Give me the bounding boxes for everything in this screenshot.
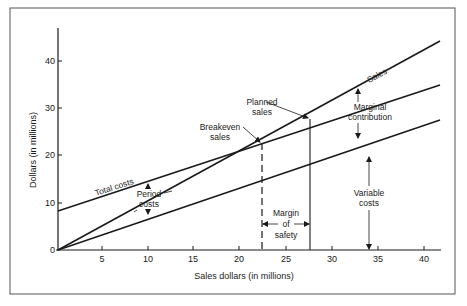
- period-leader-2: [134, 210, 137, 212]
- x-tick-20: 20: [234, 254, 244, 264]
- planned-pointer: [266, 102, 308, 118]
- sales-label: Sales: [365, 66, 388, 85]
- breakeven-label-1: Breakeven: [200, 122, 241, 132]
- y-tick-20: 20: [45, 150, 55, 160]
- margin-label-2: of: [282, 219, 290, 229]
- planned-label-2: sales: [252, 107, 272, 117]
- x-axis-label: Sales dollars (in millions): [194, 271, 294, 281]
- breakeven-pointer: [243, 127, 260, 142]
- breakeven-label-2: sales: [210, 132, 230, 142]
- y-tick-10: 10: [45, 198, 55, 208]
- period-costs-label-2: costs: [139, 199, 159, 209]
- period-costs-label-1: Period: [137, 189, 162, 199]
- x-tick-5: 5: [99, 254, 104, 264]
- y-tick-0: 0: [50, 245, 55, 255]
- marginal-label-1: Marginal: [354, 102, 387, 112]
- x-tick-30: 30: [327, 254, 337, 264]
- y-axis-label: Dollars (in millions): [28, 112, 38, 188]
- total-costs-label: Total costs: [94, 176, 135, 198]
- y-tick-40: 40: [45, 56, 55, 66]
- y-tick-30: 30: [45, 103, 55, 113]
- x-tick-15: 15: [188, 254, 198, 264]
- x-tick-40: 40: [419, 254, 429, 264]
- variable-label-2: costs: [359, 198, 379, 208]
- x-tick-25: 25: [281, 254, 291, 264]
- x-tick-10: 10: [143, 254, 153, 264]
- planned-label-1: Planned: [246, 97, 277, 107]
- x-tick-35: 35: [373, 254, 383, 264]
- margin-label-1: Margin: [273, 208, 299, 218]
- breakeven-chart: 0 10 20 30 40 5 10 15 20 25 30 35 40 Sal…: [0, 0, 467, 306]
- margin-label-3: safety: [275, 230, 298, 240]
- chart-frame: [10, 8, 455, 294]
- variable-label-1: Variable: [354, 188, 385, 198]
- marginal-label-2: contribution: [348, 112, 392, 122]
